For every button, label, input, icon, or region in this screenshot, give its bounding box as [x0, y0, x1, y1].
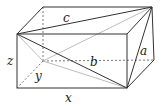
- label-z: z: [6, 54, 14, 68]
- label-a: a: [140, 44, 147, 58]
- label-c: c: [63, 11, 70, 25]
- box-diagram: c a b z y x: [0, 0, 163, 110]
- label-x: x: [65, 91, 72, 105]
- label-b: b: [90, 55, 98, 69]
- label-y: y: [34, 69, 42, 83]
